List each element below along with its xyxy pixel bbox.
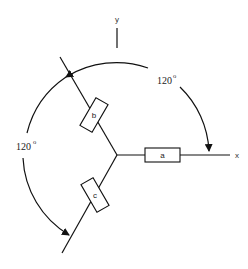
angle-right-value: 120: [157, 75, 172, 86]
angle-right-unit: o: [173, 72, 176, 79]
component-c-label: c: [93, 191, 97, 200]
branch-a: a: [145, 148, 180, 162]
angle-arc-right: 120 o: [66, 63, 209, 151]
branch-c: c: [62, 155, 117, 253]
component-b-label: b: [92, 111, 97, 120]
component-a-label: a: [160, 151, 165, 160]
branch-b: b: [60, 57, 117, 155]
angle-left-unit: o: [33, 138, 36, 145]
angle-arc-left: 120 o: [16, 77, 69, 235]
three-phase-star-diagram: y x a b c 120 o 120 o: [0, 0, 248, 269]
y-axis-label: y: [115, 15, 119, 24]
y-axis: y: [115, 15, 119, 48]
angle-left-value: 120: [16, 141, 31, 152]
x-axis-label: x: [235, 151, 239, 160]
